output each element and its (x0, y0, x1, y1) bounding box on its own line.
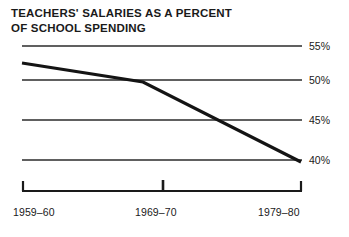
x-tick-label-1979-80: 1979–80 (258, 206, 300, 218)
y-tick-label-50: 50% (309, 75, 330, 86)
y-tick-label-55: 55% (309, 41, 330, 52)
plot-area: 55% 50% 45% 40% 1959–60 1969–70 1979–80 (0, 0, 349, 237)
x-tick-label-1959-60: 1959–60 (13, 206, 55, 218)
x-axis (22, 180, 302, 191)
chart-container: TEACHERS' SALARIES AS A PERCENT OF SCHOO… (0, 0, 349, 237)
data-line-series-0 (22, 63, 301, 162)
y-tick-label-45: 45% (309, 115, 330, 126)
x-tick-label-1969-70: 1969–70 (135, 206, 177, 218)
y-tick-label-40: 40% (309, 155, 330, 166)
chart-svg (0, 0, 349, 237)
